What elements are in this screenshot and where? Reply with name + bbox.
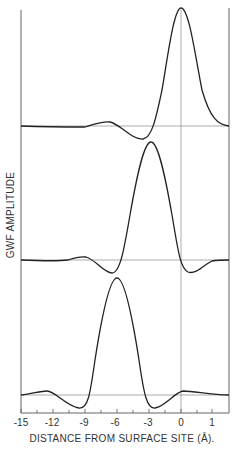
y-axis-title: GWF AMPLITUDE [5,172,16,259]
gwf-curve-1 [21,8,229,139]
gwf-curve-2 [21,142,229,273]
gwf-amplitude-chart: -15 -12 -9 -6 -3 0 1 DISTANCE FROM SURFA… [0,0,237,449]
x-tick-label: -9 [80,417,89,428]
x-tick-label: -15 [14,417,29,428]
x-tick-label: -6 [111,417,120,428]
x-tick-label: 0 [178,417,184,428]
x-tick-label: -3 [144,417,153,428]
x-axis-title: DISTANCE FROM SURFACE SITE (Å). [29,432,214,444]
x-ticks [21,409,212,413]
x-tick-label: -12 [45,417,60,428]
x-tick-label: 1 [209,417,215,428]
gwf-curve-3 [21,278,229,408]
